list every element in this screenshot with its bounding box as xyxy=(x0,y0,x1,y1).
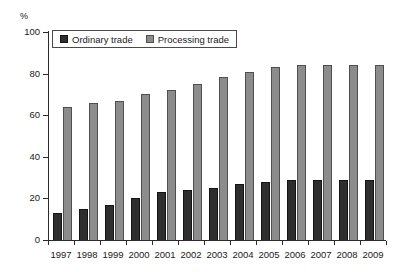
bar-group xyxy=(105,32,124,240)
bar-ordinary-trade xyxy=(183,190,192,240)
y-axis-tick-label: 100 xyxy=(24,26,40,37)
bar-ordinary-trade xyxy=(105,205,114,240)
bar-group xyxy=(287,32,306,240)
bar-group xyxy=(157,32,176,240)
x-axis-tick xyxy=(230,241,231,245)
x-axis-label: 2005 xyxy=(256,249,282,260)
x-axis-label: 2000 xyxy=(126,249,152,260)
x-axis-tick xyxy=(74,241,75,245)
bar-ordinary-trade xyxy=(261,182,270,240)
bar-processing-trade xyxy=(115,101,124,240)
bar-processing-trade xyxy=(245,72,254,240)
bar-processing-trade xyxy=(219,77,228,240)
x-axis-label: 1997 xyxy=(48,249,74,260)
chart-legend: Ordinary trade Processing trade xyxy=(52,30,237,48)
x-axis-label: 2004 xyxy=(230,249,256,260)
bar-processing-trade xyxy=(271,67,280,240)
x-axis-line xyxy=(48,240,386,241)
x-axis-tick xyxy=(308,241,309,245)
x-axis-label: 2001 xyxy=(152,249,178,260)
x-axis-tick xyxy=(126,241,127,245)
bar-group xyxy=(235,32,254,240)
bar-processing-trade xyxy=(141,94,150,240)
legend-label-ordinary-trade: Ordinary trade xyxy=(72,34,133,45)
bar-processing-trade xyxy=(63,107,72,240)
bar-ordinary-trade xyxy=(79,209,88,240)
bar-ordinary-trade xyxy=(287,180,296,240)
bar-ordinary-trade xyxy=(53,213,62,240)
y-axis-tick-label: 60 xyxy=(29,109,40,120)
bar-processing-trade xyxy=(167,90,176,240)
bar-group xyxy=(53,32,72,240)
x-axis-label: 2003 xyxy=(204,249,230,260)
bar-processing-trade xyxy=(323,65,332,240)
bar-group xyxy=(183,32,202,240)
bar-processing-trade xyxy=(349,65,358,240)
x-axis-label: 2007 xyxy=(308,249,334,260)
x-axis-label: 2006 xyxy=(282,249,308,260)
x-axis-label: 1999 xyxy=(100,249,126,260)
bar-group xyxy=(339,32,358,240)
y-axis-tick-label: 40 xyxy=(29,151,40,162)
x-axis-label: 2009 xyxy=(360,249,386,260)
y-axis-tick-label: 80 xyxy=(29,68,40,79)
x-axis-tick xyxy=(282,241,283,245)
x-axis-label: 2008 xyxy=(334,249,360,260)
bar-ordinary-trade xyxy=(365,180,374,240)
x-axis-tick xyxy=(178,241,179,245)
bar-ordinary-trade xyxy=(131,198,140,240)
bar-ordinary-trade xyxy=(157,192,166,240)
bar-ordinary-trade xyxy=(235,184,244,240)
plot-area xyxy=(48,32,386,240)
ordinary-swatch-icon xyxy=(60,35,68,43)
bar-group xyxy=(131,32,150,240)
bar-group xyxy=(79,32,98,240)
y-axis-tick-label: 20 xyxy=(29,192,40,203)
processing-swatch-icon xyxy=(146,35,154,43)
y-axis-unit-label: % xyxy=(20,11,28,21)
bar-processing-trade xyxy=(375,65,384,240)
x-axis-tick xyxy=(334,241,335,245)
bar-ordinary-trade xyxy=(313,180,322,240)
x-axis-tick xyxy=(256,241,257,245)
x-axis-tick xyxy=(100,241,101,245)
legend-entry-ordinary-trade: Ordinary trade xyxy=(60,34,133,45)
bar-ordinary-trade xyxy=(339,180,348,240)
bar-group xyxy=(209,32,228,240)
y-axis-tick-label: 0 xyxy=(35,234,40,245)
bar-group xyxy=(313,32,332,240)
x-axis-tick xyxy=(360,241,361,245)
bar-processing-trade xyxy=(193,84,202,240)
bar-chart: % 020406080100 1997199819992000200120022… xyxy=(0,0,408,272)
x-axis-label: 2002 xyxy=(178,249,204,260)
legend-entry-processing-trade: Processing trade xyxy=(146,34,229,45)
x-axis-tick xyxy=(48,241,49,245)
x-axis-tick xyxy=(152,241,153,245)
bar-processing-trade xyxy=(297,65,306,240)
legend-label-processing-trade: Processing trade xyxy=(158,34,229,45)
bar-group xyxy=(261,32,280,240)
x-axis-tick xyxy=(204,241,205,245)
x-axis-label: 1998 xyxy=(74,249,100,260)
bar-processing-trade xyxy=(89,103,98,240)
bar-ordinary-trade xyxy=(209,188,218,240)
bar-group xyxy=(365,32,384,240)
x-axis-tick xyxy=(386,241,387,245)
